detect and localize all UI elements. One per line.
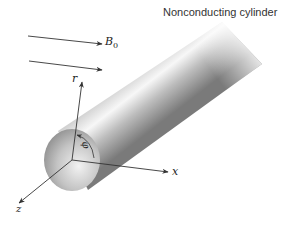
b0-symbol: B <box>105 35 113 48</box>
figure-title: Nonconducting cylinder <box>163 6 277 18</box>
z-axis-label: z <box>16 204 21 214</box>
field-arrow-upper <box>28 36 102 44</box>
x-axis-label: x <box>172 166 178 177</box>
b0-label: B0 <box>105 36 118 50</box>
diagram-canvas: Nonconducting cylinder B0 r x z φ <box>0 0 286 226</box>
r-axis-label: r <box>72 73 77 84</box>
cylinder-figure <box>0 0 286 226</box>
field-arrow-lower <box>29 61 102 70</box>
b0-subscript: 0 <box>113 41 118 50</box>
